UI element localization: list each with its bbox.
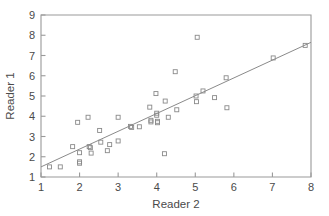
data-point-marker [116, 139, 120, 143]
y-axis-ticks [41, 15, 46, 177]
x-axis-ticks [41, 173, 311, 178]
data-points [47, 35, 307, 169]
x-tick-label: 4 [154, 181, 160, 193]
y-axis-tick-labels: 123456789 [29, 9, 35, 183]
x-tick-label: 2 [77, 181, 83, 193]
x-tick-label: 1 [38, 181, 44, 193]
x-tick-label: 8 [308, 181, 314, 193]
data-point-marker [155, 119, 159, 123]
data-point-marker [58, 165, 62, 169]
data-point-marker [224, 76, 228, 80]
data-point-marker [78, 160, 82, 164]
y-tick-label: 4 [29, 110, 35, 122]
data-point-marker [78, 151, 82, 155]
data-point-marker [86, 115, 90, 119]
scatter-plot-canvas: 12345678 123456789 Reader 2 Reader 1 [0, 0, 329, 216]
data-point-marker [105, 149, 109, 153]
y-tick-label: 9 [29, 9, 35, 21]
y-tick-label: 1 [29, 171, 35, 183]
data-point-marker [148, 105, 152, 109]
y-tick-label: 6 [29, 70, 35, 82]
data-point-marker [213, 96, 217, 100]
data-point-marker [195, 35, 199, 39]
data-point-marker [154, 92, 158, 96]
scatter-plot-figure: 12345678 123456789 Reader 2 Reader 1 [0, 0, 329, 216]
regression-line [41, 42, 311, 167]
data-point-marker [175, 108, 179, 112]
data-point-marker [137, 125, 141, 129]
y-tick-label: 7 [29, 50, 35, 62]
y-tick-label: 2 [29, 151, 35, 163]
x-tick-label: 7 [269, 181, 275, 193]
data-point-marker [194, 100, 198, 104]
data-point-marker [78, 161, 82, 165]
data-point-marker [163, 99, 167, 103]
data-point-marker [89, 151, 93, 155]
y-tick-label: 5 [29, 90, 35, 102]
data-point-marker [47, 165, 51, 169]
x-axis-title: Reader 2 [152, 198, 199, 210]
data-point-marker [162, 152, 166, 156]
data-point-marker [225, 106, 229, 110]
data-point-marker [76, 120, 80, 124]
data-point-marker [108, 143, 112, 147]
data-point-marker [98, 128, 102, 132]
data-point-marker [116, 115, 120, 119]
x-tick-label: 6 [231, 181, 237, 193]
y-tick-label: 8 [29, 29, 35, 41]
y-tick-label: 3 [29, 131, 35, 143]
data-point-marker [166, 115, 170, 119]
data-point-marker [71, 145, 75, 149]
data-point-marker [155, 121, 159, 125]
x-axis-tick-labels: 12345678 [38, 181, 314, 193]
data-point-marker [99, 140, 103, 144]
y-axis-title: Reader 1 [4, 72, 16, 119]
x-tick-label: 3 [115, 181, 121, 193]
data-point-marker [173, 70, 177, 74]
x-tick-label: 5 [192, 181, 198, 193]
